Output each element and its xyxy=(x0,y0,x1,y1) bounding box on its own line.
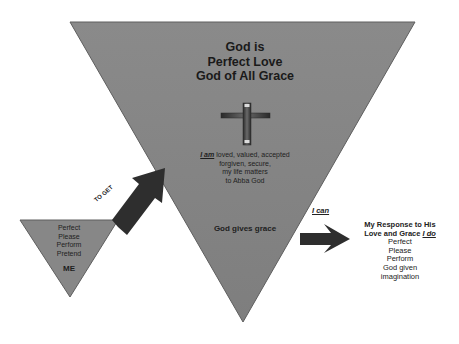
response-block: My Response to His Love and Grace I do P… xyxy=(345,221,455,281)
title-line-2: Perfect Love xyxy=(170,55,320,70)
title-line-3: God of All Grace xyxy=(170,69,320,84)
arrow-to-get-icon xyxy=(112,168,165,235)
me-label: ME xyxy=(35,264,103,273)
god-gives-grace-label: God gives grace xyxy=(190,224,300,233)
me-item: Perform xyxy=(35,241,103,250)
i-can-label: I can xyxy=(312,206,329,215)
me-item: Perfect xyxy=(35,224,103,233)
response-item: imagination xyxy=(345,273,455,282)
i-am-emphasis: I am xyxy=(200,151,214,158)
me-item: Please xyxy=(35,233,103,242)
big-triangle-title: God is Perfect Love God of All Grace xyxy=(170,40,320,84)
identity-line-1: I am loved, valued, accepted xyxy=(170,151,320,160)
me-item: Pretend xyxy=(35,250,103,259)
identity-line-2: forgiven, secure, xyxy=(170,160,320,169)
identity-line-4: to Abba God xyxy=(170,177,320,186)
title-line-1: God is xyxy=(170,40,320,55)
arrow-right-icon xyxy=(300,224,350,253)
i-do-emphasis: I do xyxy=(423,229,436,238)
me-items-list: Perfect Please Perform Pretend xyxy=(35,224,103,258)
identity-line-3: my life matters xyxy=(170,168,320,177)
identity-line-1-rest: loved, valued, accepted xyxy=(214,151,290,158)
identity-text: I am loved, valued, accepted forgiven, s… xyxy=(170,151,320,185)
